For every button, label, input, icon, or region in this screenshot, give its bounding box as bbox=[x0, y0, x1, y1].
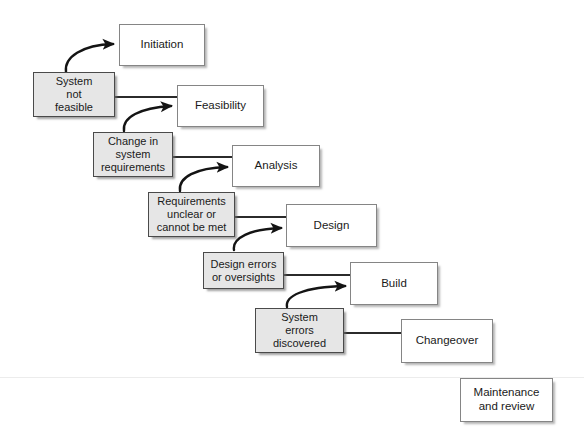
stage-box-initiation[interactable]: Initiation bbox=[119, 24, 205, 66]
stage-label-maintenance-and-review: Maintenanceand review bbox=[461, 386, 552, 413]
feedback-label-requirements-unclear: Requirementsunclear orcannot be met bbox=[149, 195, 234, 234]
stage-box-design[interactable]: Design bbox=[286, 204, 377, 247]
feedback-label-system-errors-discovered: Systemerrorsdiscovered bbox=[256, 311, 343, 350]
feedback-box-system-not-feasible[interactable]: Systemnotfeasible bbox=[33, 72, 115, 117]
feedback-label-change-in-system-requirements: Change insystemrequirements bbox=[94, 135, 172, 174]
waterfall-diagram-canvas: Initiation Feasibility Analysis Design B… bbox=[0, 0, 584, 436]
arrow-system-errors-to-build bbox=[287, 286, 345, 307]
stage-box-changeover[interactable]: Changeover bbox=[401, 319, 493, 363]
stage-label-initiation: Initiation bbox=[120, 38, 204, 52]
feedback-label-design-errors-or-oversights: Design errorsor oversights bbox=[204, 258, 283, 284]
feedback-box-design-errors-or-oversights[interactable]: Design errorsor oversights bbox=[203, 252, 284, 289]
feedback-box-change-in-system-requirements[interactable]: Change insystemrequirements bbox=[93, 132, 173, 177]
stage-label-build: Build bbox=[351, 277, 437, 291]
stage-label-analysis: Analysis bbox=[233, 159, 319, 173]
stage-label-feasibility: Feasibility bbox=[178, 99, 263, 113]
arrow-change-in-requirements-to-feasibility bbox=[124, 106, 171, 131]
feedback-label-system-not-feasible: Systemnotfeasible bbox=[34, 75, 114, 114]
arrow-system-not-feasible-to-initiation bbox=[66, 44, 113, 72]
stage-box-build[interactable]: Build bbox=[350, 262, 438, 305]
stage-label-design: Design bbox=[287, 219, 376, 233]
stage-box-maintenance-and-review[interactable]: Maintenanceand review bbox=[460, 378, 553, 422]
feedback-box-requirements-unclear[interactable]: Requirementsunclear orcannot be met bbox=[148, 192, 235, 237]
stage-box-analysis[interactable]: Analysis bbox=[232, 145, 320, 187]
arrow-design-errors-to-design bbox=[234, 228, 281, 250]
arrow-requirements-unclear-to-analysis bbox=[180, 167, 227, 191]
stage-box-feasibility[interactable]: Feasibility bbox=[177, 85, 264, 127]
stage-label-changeover: Changeover bbox=[402, 334, 492, 348]
feedback-box-system-errors-discovered[interactable]: Systemerrorsdiscovered bbox=[255, 308, 344, 353]
